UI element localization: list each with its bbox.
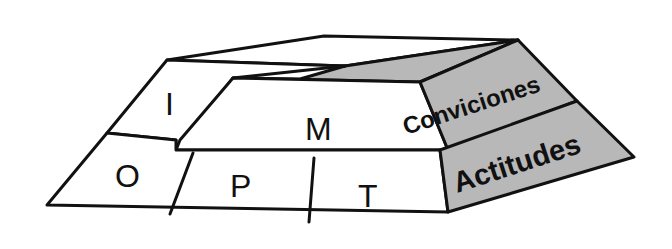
label-O: O xyxy=(115,158,140,194)
label-M: M xyxy=(305,111,332,147)
label-P: P xyxy=(230,168,251,204)
label-I: I xyxy=(165,86,174,122)
label-T: T xyxy=(358,178,378,214)
layered-block-diagram: I M O P T Conviciones Actitudes xyxy=(0,0,672,249)
